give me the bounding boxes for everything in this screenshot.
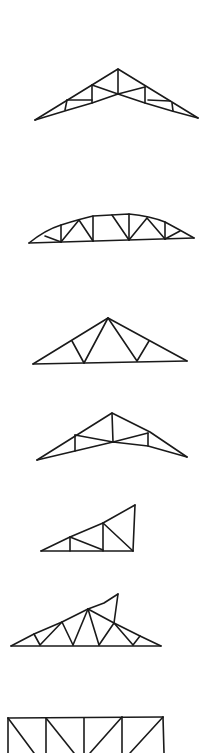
scissor-truss-2 bbox=[37, 413, 187, 460]
bowstring-truss bbox=[29, 214, 194, 243]
flat-truss bbox=[8, 717, 164, 753]
fink-truss bbox=[33, 318, 187, 364]
dual-pitch-truss bbox=[11, 594, 161, 646]
truss-sketch-canvas bbox=[0, 0, 202, 753]
mono-pitch-truss bbox=[41, 505, 135, 551]
scissor-truss bbox=[35, 69, 198, 120]
